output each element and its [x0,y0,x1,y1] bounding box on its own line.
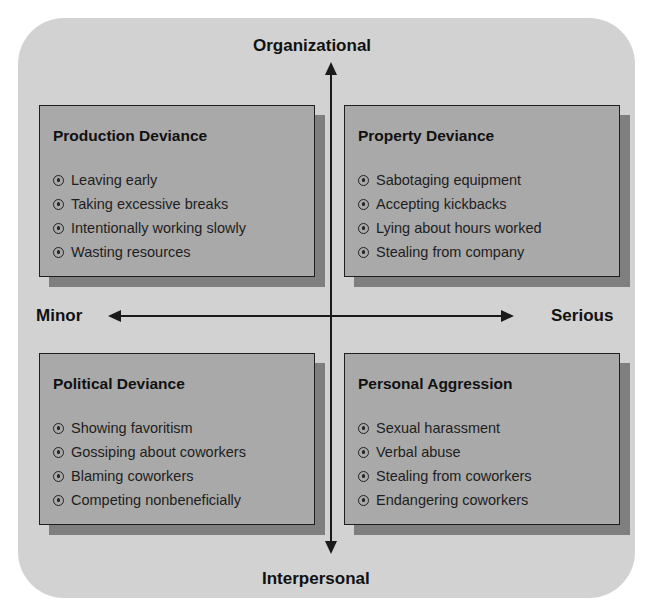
list-item-text: Blaming coworkers [71,464,194,488]
list-item: Intentionally working slowly [53,216,246,240]
list-item-text: Showing favoritism [71,416,193,440]
list-item: Blaming coworkers [53,464,246,488]
axis-label-organizational: Organizational [253,36,371,56]
quadrant-box: Production Deviance Leaving early Taking… [39,105,315,277]
list-item-text: Sexual harassment [376,416,500,440]
bullet-icon [358,423,369,434]
arrow-up-icon [325,62,337,75]
quadrant-title: Political Deviance [53,375,185,393]
axis-label-interpersonal: Interpersonal [262,569,370,589]
bullet-icon [358,495,369,506]
list-item-text: Stealing from company [376,240,524,264]
bullet-icon [358,447,369,458]
list-item: Stealing from coworkers [358,464,532,488]
list-item: Verbal abuse [358,440,532,464]
list-item-text: Lying about hours worked [376,216,542,240]
bullet-icon [358,223,369,234]
quadrant-title: Property Deviance [358,127,494,145]
bullet-icon [53,247,64,258]
list-item: Taking excessive breaks [53,192,246,216]
list-item: Sexual harassment [358,416,532,440]
bullet-icon [53,423,64,434]
quadrant-box: Personal Aggression Sexual harassment Ve… [344,353,620,525]
quadrant-title: Production Deviance [53,127,207,145]
behavior-list: Sabotaging equipment Accepting kickbacks… [358,168,542,264]
list-item-text: Gossiping about coworkers [71,440,246,464]
list-item: Competing nonbeneficially [53,488,246,512]
list-item-text: Endangering coworkers [376,488,528,512]
bullet-icon [53,199,64,210]
list-item-text: Sabotaging equipment [376,168,521,192]
quadrant-box: Property Deviance Sabotaging equipment A… [344,105,620,277]
list-item: Sabotaging equipment [358,168,542,192]
axis-label-minor: Minor [36,306,82,326]
bullet-icon [358,471,369,482]
list-item-text: Taking excessive breaks [71,192,228,216]
bullet-icon [53,495,64,506]
list-item: Gossiping about coworkers [53,440,246,464]
list-item-text: Accepting kickbacks [376,192,507,216]
quadrant-property-deviance: Property Deviance Sabotaging equipment A… [344,105,620,277]
behavior-list: Leaving early Taking excessive breaks In… [53,168,246,264]
quadrant-political-deviance: Political Deviance Showing favoritism Go… [39,353,315,525]
bullet-icon [53,471,64,482]
quadrant-title: Personal Aggression [358,375,512,393]
horizontal-axis-line [112,315,508,317]
list-item-text: Wasting resources [71,240,191,264]
bullet-icon [53,223,64,234]
bullet-icon [53,175,64,186]
bullet-icon [358,175,369,186]
vertical-axis-line [330,66,332,548]
arrow-down-icon [325,541,337,554]
list-item: Lying about hours worked [358,216,542,240]
behavior-list: Sexual harassment Verbal abuse Stealing … [358,416,532,512]
bullet-icon [358,247,369,258]
list-item: Leaving early [53,168,246,192]
arrow-left-icon [108,310,121,322]
list-item-text: Competing nonbeneficially [71,488,241,512]
bullet-icon [53,447,64,458]
axis-label-serious: Serious [551,306,613,326]
list-item: Wasting resources [53,240,246,264]
bullet-icon [358,199,369,210]
quadrant-box: Political Deviance Showing favoritism Go… [39,353,315,525]
behavior-list: Showing favoritism Gossiping about cowor… [53,416,246,512]
list-item: Showing favoritism [53,416,246,440]
list-item-text: Intentionally working slowly [71,216,246,240]
list-item: Endangering coworkers [358,488,532,512]
quadrant-personal-aggression: Personal Aggression Sexual harassment Ve… [344,353,620,525]
quadrant-production-deviance: Production Deviance Leaving early Taking… [39,105,315,277]
list-item-text: Verbal abuse [376,440,461,464]
arrow-right-icon [501,310,514,322]
list-item: Stealing from company [358,240,542,264]
list-item: Accepting kickbacks [358,192,542,216]
list-item-text: Stealing from coworkers [376,464,532,488]
list-item-text: Leaving early [71,168,157,192]
